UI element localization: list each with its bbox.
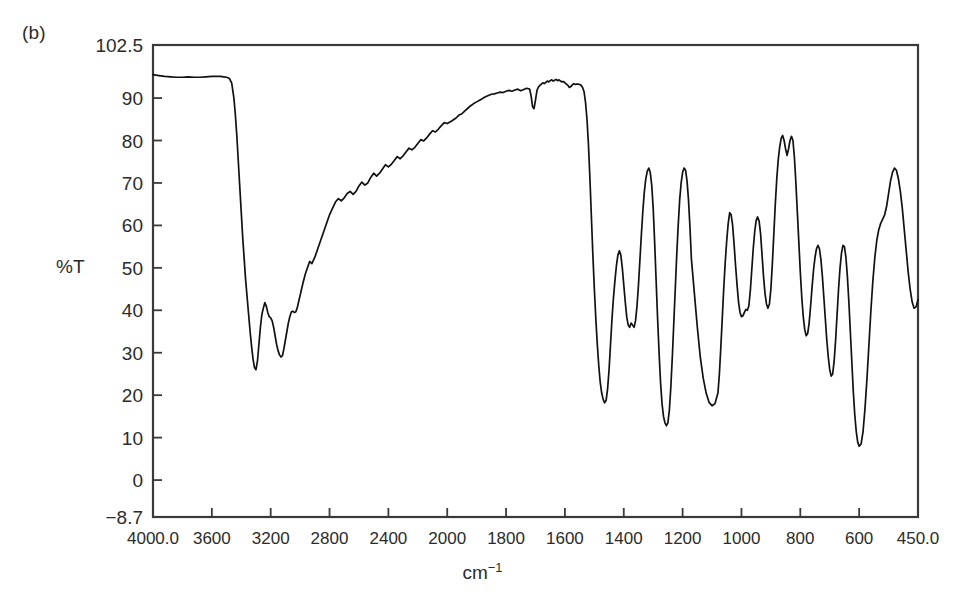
y-axis-tick-label: 30: [122, 343, 143, 364]
y-axis-tick-label: 60: [122, 215, 143, 236]
y-axis-tick-label: 0: [132, 470, 143, 491]
y-axis-tick-label: 20: [122, 385, 143, 406]
spectrum-traces: [153, 75, 918, 446]
x-axis-tick-label: 1800: [487, 529, 525, 548]
x-axis-tick-label: 3600: [193, 529, 231, 548]
x-axis-tick-label: 450.0: [897, 529, 940, 548]
plot-frame: [153, 45, 918, 517]
x-axis-tick-label: 2400: [369, 529, 407, 548]
y-axis-tick-label: 50: [122, 258, 143, 279]
y-axis-tick-label: 10: [122, 428, 143, 449]
y-axis-tick-label: 40: [122, 300, 143, 321]
spectrum-trace: [153, 75, 918, 446]
y-axis-tick-label: −8.7: [105, 507, 143, 528]
x-axis-tick-label: 2800: [311, 529, 349, 548]
x-axis-tick-label: 800: [786, 529, 814, 548]
y-axis-tick-label: 90: [122, 88, 143, 109]
y-axis-tick-label: 102.5: [95, 35, 143, 56]
x-axis-tick-label: 1200: [664, 529, 702, 548]
x-axis-tick-label: 1000: [723, 529, 761, 548]
ir-spectrum-figure: (b) %T cm−1 102.59080706050403020100−8.7…: [0, 0, 965, 614]
x-axis-tick-labels: 4000.03600320028002400200018001600140012…: [127, 529, 939, 548]
y-axis-tick-labels: 102.59080706050403020100−8.7: [95, 35, 143, 528]
x-axis-tick-label: 600: [845, 529, 873, 548]
y-axis-tick-label: 70: [122, 173, 143, 194]
x-axis-tick-label: 3200: [252, 529, 290, 548]
spectrum-plot: 102.59080706050403020100−8.7 4000.036003…: [0, 0, 965, 614]
x-axis-ticks: [212, 508, 859, 517]
x-axis-tick-label: 1600: [546, 529, 584, 548]
x-axis-tick-label: 2000: [428, 529, 466, 548]
y-axis-tick-label: 80: [122, 131, 143, 152]
x-axis-tick-label: 4000.0: [127, 529, 179, 548]
x-axis-tick-label: 1400: [605, 529, 643, 548]
y-axis-ticks: [153, 45, 162, 517]
